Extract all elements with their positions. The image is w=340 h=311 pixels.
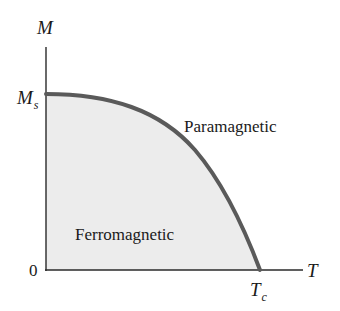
x-axis-label: T [307, 261, 318, 280]
ferromagnetic-region-label: Ferromagnetic [75, 226, 174, 243]
phase-diagram [0, 0, 340, 311]
curie-temperature-label: Tc [250, 280, 267, 299]
origin-label: 0 [29, 262, 38, 279]
tc-main: T [250, 279, 261, 300]
tc-sub: c [262, 290, 267, 304]
ms-sub: s [34, 98, 39, 112]
y-axis-label: M [37, 18, 53, 37]
ms-main: M [17, 87, 33, 108]
saturation-magnetization-label: Ms [17, 88, 39, 107]
paramagnetic-region-label: Paramagnetic [184, 118, 277, 135]
